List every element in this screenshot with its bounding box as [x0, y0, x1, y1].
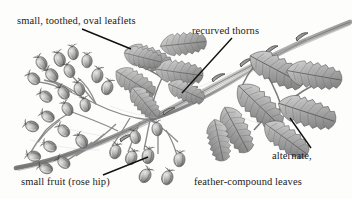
- leaf-cluster-center: [110, 30, 208, 124]
- label-small-fruit-rose-hip: small fruit (rose hip): [21, 176, 110, 188]
- label-alternate: alternate,: [272, 150, 312, 162]
- botanical-illustration-figure: small, toothed, oval leaflets recurved t…: [0, 0, 352, 199]
- rose-branch-drawing: [0, 0, 352, 199]
- leaf-cluster-right: [204, 44, 345, 165]
- label-feather-compound-leaves: feather-compound leaves: [194, 176, 302, 188]
- label-recurved-thorns: recurved thorns: [192, 25, 259, 37]
- label-small-toothed-oval-leaflets: small, toothed, oval leaflets: [17, 15, 136, 27]
